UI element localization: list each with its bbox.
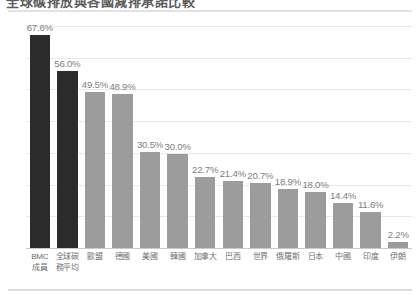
page-title-clipped: 全球碳排放與各國減排承諾比較 [0, 0, 420, 10]
bar-group: 56.0% [54, 27, 82, 249]
bar-value-label: 48.9% [109, 81, 135, 92]
bar[interactable] [360, 212, 380, 249]
bar[interactable] [223, 181, 243, 249]
bar-chart: 67.6%56.0%49.5%48.9%30.5%30.0%22.7%21.4%… [0, 14, 420, 289]
bar-value-label: 18.9% [275, 176, 301, 187]
bar-value-label: 11.6% [358, 199, 384, 210]
category-label: 加拿大 [191, 252, 219, 263]
category-label-line: 韓國 [164, 252, 192, 263]
category-label: 中國 [329, 252, 357, 263]
bar-group: 14.4% [329, 27, 357, 249]
bar-group: 18.0% [302, 27, 330, 249]
bar-group: 30.0% [164, 27, 192, 249]
bar-value-label: 21.4% [220, 168, 246, 179]
bar-group: 11.6% [357, 27, 385, 249]
category-label-line: 中國 [329, 252, 357, 263]
bar-series: 67.6%56.0%49.5%48.9%30.5%30.0%22.7%21.4%… [26, 27, 412, 249]
category-label: 世界 [247, 252, 275, 263]
bar[interactable] [195, 177, 215, 249]
top-divider [8, 10, 412, 12]
category-label: 德國 [109, 252, 137, 263]
category-label: 俄羅斯 [274, 252, 302, 263]
category-label-line: 德國 [109, 252, 137, 263]
bar[interactable] [140, 152, 160, 249]
bar[interactable] [85, 92, 105, 249]
category-label-line: BMC [26, 252, 54, 263]
category-label-line: 世界 [247, 252, 275, 263]
bar-value-label: 30.5% [137, 139, 163, 150]
category-label-line: 務平均 [54, 263, 82, 274]
category-label-line: 美國 [136, 252, 164, 263]
bar-group: 49.5% [81, 27, 109, 249]
category-label: BMC成員 [26, 252, 54, 273]
bar[interactable] [278, 189, 298, 249]
category-label: 歐盟 [81, 252, 109, 263]
category-label-line: 印度 [357, 252, 385, 263]
category-label-line: 伊朗 [384, 252, 412, 263]
bar[interactable] [30, 35, 50, 249]
bar[interactable] [250, 183, 270, 249]
bar-value-label: 2.2% [388, 229, 409, 240]
category-axis-labels: BMC成員全球碳務平均歐盟德國美國韓國加拿大巴西世界俄羅斯日本中國印度伊朗 [26, 252, 412, 286]
bar[interactable] [167, 154, 187, 249]
bar-group: 2.2% [384, 27, 412, 249]
bar-value-label: 22.7% [192, 164, 218, 175]
category-label-line: 俄羅斯 [274, 252, 302, 263]
bar-value-label: 14.4% [330, 190, 356, 201]
bar-value-label: 56.0% [54, 58, 80, 69]
bar-group: 20.7% [247, 27, 275, 249]
bottom-divider [8, 289, 412, 291]
bar-group: 21.4% [219, 27, 247, 249]
x-axis-line [26, 248, 412, 249]
bar-value-label: 20.7% [247, 170, 273, 181]
category-label: 美國 [136, 252, 164, 263]
bar-group: 22.7% [191, 27, 219, 249]
category-label: 全球碳務平均 [54, 252, 82, 273]
bar-value-label: 67.6% [27, 22, 53, 33]
category-label-line: 加拿大 [191, 252, 219, 263]
category-label-line: 日本 [302, 252, 330, 263]
category-label: 韓國 [164, 252, 192, 263]
category-label-line: 巴西 [219, 252, 247, 263]
bar-group: 48.9% [109, 27, 137, 249]
bar-value-label: 49.5% [82, 79, 108, 90]
category-label-line: 歐盟 [81, 252, 109, 263]
page-title: 全球碳排放與各國減排承諾比較 [6, 0, 195, 10]
category-label: 伊朗 [384, 252, 412, 263]
category-label: 印度 [357, 252, 385, 263]
bar-value-label: 30.0% [165, 141, 191, 152]
bar[interactable] [112, 94, 132, 249]
category-label: 巴西 [219, 252, 247, 263]
category-label-line: 成員 [26, 263, 54, 274]
bar[interactable] [305, 192, 325, 249]
bar-group: 18.9% [274, 27, 302, 249]
bar-group: 67.6% [26, 27, 54, 249]
plot-area: 67.6%56.0%49.5%48.9%30.5%30.0%22.7%21.4%… [26, 27, 412, 249]
category-label: 日本 [302, 252, 330, 263]
bar[interactable] [333, 203, 353, 249]
bar-group: 30.5% [136, 27, 164, 249]
category-label-line: 全球碳 [54, 252, 82, 263]
bar[interactable] [57, 71, 77, 249]
bar-value-label: 18.0% [302, 179, 328, 190]
